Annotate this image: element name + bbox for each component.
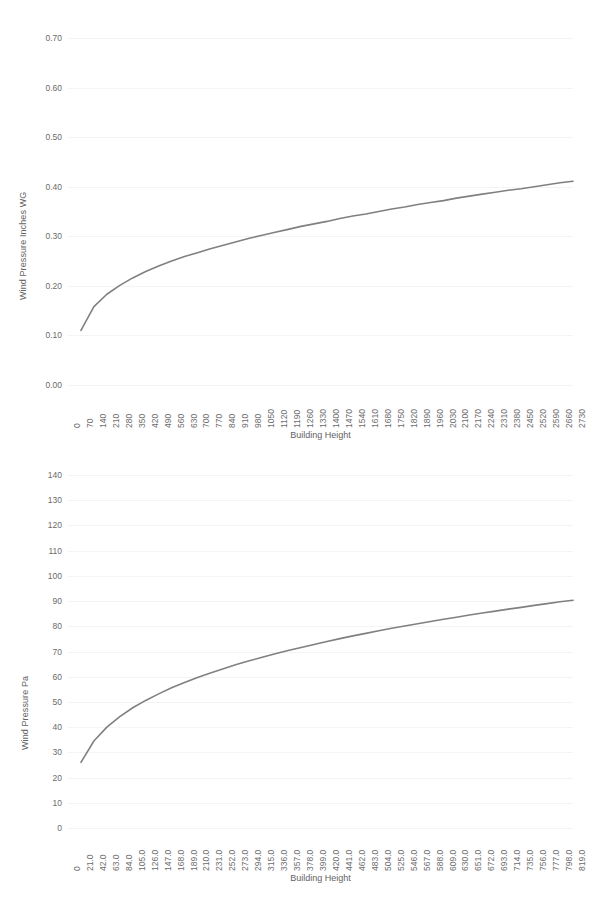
y-tick-label: 60 <box>4 672 62 682</box>
y-tick-label: 40 <box>4 722 62 732</box>
chart-1-x-tick-labels: 0701402102803504204905606307007708409109… <box>0 388 595 433</box>
x-tick-label: 1260 <box>305 409 315 428</box>
y-tick-label: 0.70 <box>4 33 62 43</box>
y-tick-label: 110 <box>4 546 62 556</box>
x-tick-label: 231.0 <box>214 850 224 871</box>
y-tick-label: 100 <box>4 571 62 581</box>
chart-1-y-tick-labels: 0.700.600.500.400.300.200.100.00 <box>0 0 62 450</box>
y-tick-label: 30 <box>4 747 62 757</box>
x-tick-label: 252.0 <box>227 850 237 871</box>
x-tick-label: 798.0 <box>564 850 574 871</box>
y-tick-label: 70 <box>4 647 62 657</box>
x-tick-label: 672.0 <box>486 850 496 871</box>
x-tick-label: 1540 <box>357 409 367 428</box>
chart-1-plot-wrapper: Wind Pressure Inches WG 0.700.600.500.40… <box>0 0 595 450</box>
y-tick-label: 50 <box>4 697 62 707</box>
x-tick-label: 1400 <box>331 409 341 428</box>
y-tick-label: 0.50 <box>4 132 62 142</box>
x-tick-label: 350 <box>137 414 147 428</box>
x-tick-label: 1470 <box>344 409 354 428</box>
x-tick-label: 1610 <box>370 409 380 428</box>
y-tick-label: 130 <box>4 495 62 505</box>
x-tick-label: 140 <box>98 414 108 428</box>
x-tick-label: 273.0 <box>240 850 250 871</box>
wind-pressure-inches-wg-chart: Wind Pressure Inches WG 0.700.600.500.40… <box>0 0 595 450</box>
x-tick-label: 2030 <box>448 409 458 428</box>
x-tick-label: 2310 <box>499 409 509 428</box>
x-tick-label: 294.0 <box>253 850 263 871</box>
y-tick-label: 20 <box>4 773 62 783</box>
x-tick-label: 980 <box>253 414 263 428</box>
x-tick-label: 770 <box>214 414 224 428</box>
y-tick-label: 120 <box>4 520 62 530</box>
chart-1-series-line <box>68 38 573 385</box>
x-tick-label: 1960 <box>435 409 445 428</box>
x-tick-label: 756.0 <box>538 850 548 871</box>
x-tick-label: 560 <box>176 414 186 428</box>
x-tick-label: 21.0 <box>85 854 95 871</box>
x-tick-label: 357.0 <box>292 850 302 871</box>
x-tick-label: 630.0 <box>460 850 470 871</box>
x-tick-label: 462.0 <box>357 850 367 871</box>
x-tick-label: 819.0 <box>577 850 587 871</box>
chart-2-series-line <box>68 475 573 828</box>
chart-1-plot-area <box>68 38 573 385</box>
x-tick-label: 378.0 <box>305 850 315 871</box>
x-tick-label: 2590 <box>551 409 561 428</box>
x-tick-label: 546.0 <box>409 850 419 871</box>
x-tick-label: 70 <box>85 419 95 428</box>
gridline <box>68 385 573 386</box>
x-tick-label: 1890 <box>422 409 432 428</box>
x-tick-label: 630 <box>189 414 199 428</box>
chart-2-x-tick-labels: 021.042.063.084.0105.0126.0147.0168.0189… <box>0 831 595 876</box>
x-tick-label: 420.0 <box>331 850 341 871</box>
x-tick-label: 651.0 <box>473 850 483 871</box>
y-tick-label: 90 <box>4 596 62 606</box>
x-tick-label: 1190 <box>292 410 302 428</box>
gridline <box>68 828 573 829</box>
x-tick-label: 2520 <box>538 409 548 428</box>
x-tick-label: 280 <box>124 414 134 428</box>
x-tick-label: 588.0 <box>435 850 445 871</box>
x-tick-label: 777.0 <box>551 850 561 871</box>
y-tick-label: 0.40 <box>4 182 62 192</box>
x-tick-label: 504.0 <box>383 850 393 871</box>
y-tick-label: 80 <box>4 621 62 631</box>
x-tick-label: 2240 <box>486 409 496 428</box>
x-tick-label: 2100 <box>460 409 470 428</box>
x-tick-label: 0 <box>72 423 82 428</box>
x-tick-label: 2380 <box>512 409 522 428</box>
y-tick-label: 0.60 <box>4 83 62 93</box>
x-tick-label: 1680 <box>383 409 393 428</box>
x-tick-label: 105.0 <box>137 850 147 871</box>
x-tick-label: 1330 <box>318 409 328 428</box>
y-tick-label: 10 <box>4 798 62 808</box>
chart-2-x-axis-title: Building Height <box>68 873 573 883</box>
x-tick-label: 168.0 <box>176 850 186 871</box>
x-tick-label: 42.0 <box>98 854 108 871</box>
x-tick-label: 483.0 <box>370 850 380 871</box>
x-tick-label: 210.0 <box>201 850 211 871</box>
x-tick-label: 714.0 <box>512 850 522 871</box>
x-tick-label: 910 <box>240 414 250 428</box>
x-tick-label: 840 <box>227 414 237 428</box>
x-tick-label: 1050 <box>266 409 276 428</box>
x-tick-label: 735.0 <box>525 850 535 871</box>
chart-2-plot-wrapper: Wind Pressure Pa 14013012011010090807060… <box>0 450 595 897</box>
x-tick-label: 63.0 <box>111 854 121 871</box>
x-tick-label: 210 <box>111 414 121 428</box>
y-tick-label: 0.10 <box>4 330 62 340</box>
x-tick-label: 1750 <box>396 409 406 428</box>
x-tick-label: 700 <box>201 414 211 428</box>
x-tick-label: 0 <box>72 866 82 871</box>
chart-2-y-tick-labels: 1401301201101009080706050403020100 <box>0 450 62 897</box>
x-tick-label: 420 <box>150 414 160 428</box>
y-tick-label: 0.20 <box>4 281 62 291</box>
x-tick-label: 693.0 <box>499 850 509 871</box>
x-tick-label: 315.0 <box>266 850 276 871</box>
x-tick-label: 1120 <box>279 410 289 428</box>
x-tick-label: 1820 <box>409 409 419 428</box>
x-tick-label: 2170 <box>473 409 483 428</box>
x-tick-label: 336.0 <box>279 850 289 871</box>
x-tick-label: 147.0 <box>163 850 173 871</box>
